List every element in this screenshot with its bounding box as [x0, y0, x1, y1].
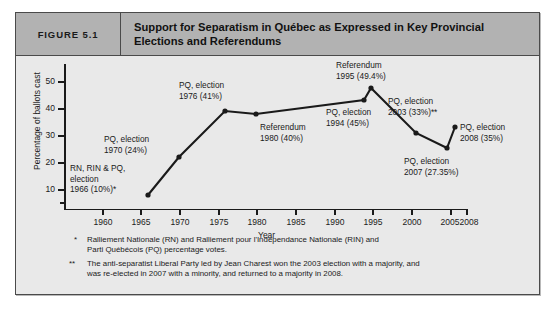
- annotation-2003-line2: 2003 (33%)**: [388, 107, 437, 118]
- annotation-1970-line2: 1970 (24%): [104, 145, 149, 156]
- annotation-1994: PQ, election 1994 (45%): [326, 107, 371, 128]
- data-point-2008: [452, 124, 457, 129]
- data-point-1970: [176, 154, 181, 159]
- figure-title-cell: Support for Separatism in Québec as Expr…: [121, 13, 539, 55]
- annotation-1976-line2: 1976 (41%): [179, 91, 224, 102]
- annotation-1994-line2: 1994 (45%): [326, 118, 371, 129]
- figure-number-cell: FIGURE 5.1: [16, 13, 121, 55]
- annotation-1966-line3: 1966 (10%)*: [70, 184, 125, 195]
- figure-title: Support for Separatism in Québec as Expr…: [134, 20, 529, 48]
- annotation-1966: RN, RIN & PQ, election 1966 (10%)*: [70, 163, 125, 195]
- annotation-1980-line2: 1980 (40%): [260, 133, 306, 144]
- annotation-1966-line2: election: [70, 174, 125, 185]
- footnotes-block: * Ralliement Nationale (RN) and Rallieme…: [16, 235, 539, 283]
- annotation-1980: Referendum 1980 (40%): [260, 122, 306, 143]
- annotation-2008-line1: PQ, election: [460, 122, 505, 133]
- annotation-1976-line1: PQ, election: [179, 80, 224, 91]
- data-point-1976: [222, 108, 227, 113]
- data-point-1966: [145, 192, 150, 197]
- annotation-2007-line2: 2007 (27.35%): [404, 167, 458, 178]
- annotation-2007-line1: PQ, election: [404, 156, 458, 167]
- data-point-1980: [253, 111, 258, 116]
- footnote-1: * Ralliement Nationale (RN) and Rallieme…: [74, 235, 511, 256]
- annotation-1970-line1: PQ, election: [104, 134, 149, 145]
- footnote-1-line1: Ralliement Nationale (RN) and Ralliement…: [87, 235, 379, 244]
- annotation-1966-line1: RN, RIN & PQ,: [70, 163, 125, 174]
- annotation-1995: Referendum 1995 (49.4%): [336, 60, 386, 81]
- footnote-2-line2: was re-elected in 2007 with a minority, …: [87, 269, 343, 278]
- figure-frame: FIGURE 5.1 Support for Separatism in Qué…: [15, 12, 540, 295]
- figure-number-label: FIGURE 5.1: [38, 29, 99, 40]
- footnote-2: ** The anti-separatist Liberal Party led…: [74, 259, 511, 280]
- annotation-2007: PQ, election 2007 (27.35%): [404, 156, 458, 177]
- annotation-1976: PQ, election 1976 (41%): [179, 80, 224, 101]
- annotation-1994-line1: PQ, election: [326, 107, 371, 118]
- annotation-2008-line2: 2008 (35%): [460, 133, 505, 144]
- data-point-2007: [444, 145, 449, 150]
- data-point-2003: [413, 130, 418, 135]
- annotation-2003: PQ, election 2003 (33%)**: [388, 96, 437, 117]
- data-point-1995: [368, 85, 373, 90]
- annotation-2008: PQ, election 2008 (35%): [460, 122, 505, 143]
- footnote-1-marker: *: [74, 235, 77, 245]
- annotation-1995-line2: 1995 (49.4%): [336, 71, 386, 82]
- annotation-1970: PQ, election 1970 (24%): [104, 134, 149, 155]
- figure-header: FIGURE 5.1 Support for Separatism in Qué…: [16, 13, 539, 56]
- annotation-1995-line1: Referendum: [336, 60, 386, 71]
- footnote-2-line1: The anti-separatist Liberal Party led by…: [87, 259, 420, 268]
- data-point-1994: [361, 97, 366, 102]
- footnote-2-marker: **: [69, 259, 75, 269]
- annotation-2003-line1: PQ, election: [388, 96, 437, 107]
- annotation-1980-line1: Referendum: [260, 122, 306, 133]
- footnote-1-line2: Parti Québécois (PQ) percentage votes.: [87, 245, 227, 254]
